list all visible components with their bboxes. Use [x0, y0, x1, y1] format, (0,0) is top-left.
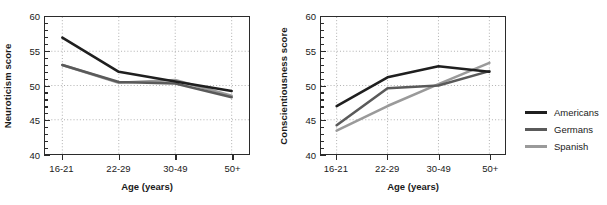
y-axis-minor-tick [44, 30, 48, 31]
y-axis-tick-mark [44, 16, 50, 17]
y-axis-tick-label: 40 [18, 150, 40, 161]
legend-label: Americans [554, 107, 599, 118]
y-axis-minor-tick [320, 113, 324, 114]
figure-root: Neuroticism score 404550556016-2122-2930… [0, 0, 607, 205]
y-axis-minor-tick [320, 30, 324, 31]
x-axis-tick-label: 16-21 [324, 163, 348, 174]
y-axis-minor-tick [320, 58, 324, 59]
x-axis-tick-label: 30-49 [163, 163, 187, 174]
x-axis-tick-label: 22-29 [106, 163, 130, 174]
legend-swatch [525, 145, 547, 148]
y-axis-tick-mark [44, 120, 50, 121]
x-axis-title: Age (years) [387, 181, 439, 192]
x-axis-tick-mark [175, 155, 176, 160]
y-axis-minor-tick [320, 72, 324, 73]
x-axis-tick-label: 22-29 [375, 163, 399, 174]
y-axis-minor-tick [44, 99, 48, 100]
y-axis-minor-tick [320, 79, 324, 80]
legend-swatch [525, 128, 547, 131]
series-line-germans [337, 71, 490, 125]
x-axis-tick-label: 50+ [482, 163, 498, 174]
y-axis-minor-tick [44, 23, 48, 24]
y-axis-minor-tick [320, 141, 324, 142]
x-axis-tick-mark [387, 155, 388, 160]
y-axis-tick-mark [320, 51, 326, 52]
y-axis-minor-tick [320, 127, 324, 128]
chart-legend: AmericansGermansSpanish [525, 104, 599, 155]
y-axis-tick-label: 45 [18, 115, 40, 126]
y-axis-minor-tick [320, 65, 324, 66]
y-axis-minor-tick [320, 92, 324, 93]
legend-label: Spanish [554, 141, 588, 152]
y-axis-tick-label: 40 [294, 150, 316, 161]
legend-label: Germans [554, 124, 593, 135]
y-axis-tick-mark [44, 155, 50, 156]
y-axis-minor-tick [320, 23, 324, 24]
legend-item-americans: Americans [525, 104, 599, 121]
y-axis-minor-tick [320, 148, 324, 149]
y-axis-minor-tick [320, 99, 324, 100]
y-axis-minor-tick [44, 148, 48, 149]
y-axis-minor-tick [44, 58, 48, 59]
y-axis-minor-tick [320, 106, 324, 107]
plot-area [320, 16, 506, 155]
y-axis-tick-label: 50 [294, 80, 316, 91]
y-axis-tick-mark [320, 86, 326, 87]
y-axis-minor-tick [44, 79, 48, 80]
legend-item-germans: Germans [525, 121, 599, 138]
y-axis-title: Conscientiousness score [278, 27, 289, 144]
y-axis-minor-tick [44, 134, 48, 135]
y-axis-tick-label: 50 [18, 80, 40, 91]
y-axis-tick-label: 55 [18, 45, 40, 56]
y-axis-tick-mark [44, 51, 50, 52]
x-axis-tick-mark [232, 155, 233, 160]
x-axis-tick-label: 16-21 [49, 163, 73, 174]
y-axis-tick-mark [320, 120, 326, 121]
y-axis-minor-tick [44, 37, 48, 38]
y-axis-minor-tick [44, 141, 48, 142]
x-axis-tick-label: 30-49 [427, 163, 451, 174]
y-axis-tick-label: 45 [294, 115, 316, 126]
y-axis-minor-tick [44, 127, 48, 128]
x-axis-title: Age (years) [121, 181, 173, 192]
y-axis-tick-mark [320, 16, 326, 17]
legend-item-spanish: Spanish [525, 138, 599, 155]
y-axis-tick-label: 60 [18, 11, 40, 22]
x-axis-tick-mark [490, 155, 491, 160]
y-axis-tick-label: 60 [294, 11, 316, 22]
chart-panel-conscientiousness: Conscientiousness score 404550556016-212… [280, 0, 520, 205]
y-axis-minor-tick [320, 44, 324, 45]
series-lines [45, 17, 249, 154]
x-axis-tick-mark [336, 155, 337, 160]
y-axis-minor-tick [44, 106, 48, 107]
x-axis-tick-label: 50+ [224, 163, 240, 174]
y-axis-minor-tick [44, 65, 48, 66]
plot-area [44, 16, 250, 155]
y-axis-title: Neuroticism score [2, 43, 13, 128]
series-lines [321, 17, 505, 154]
y-axis-minor-tick [44, 44, 48, 45]
y-axis-minor-tick [44, 92, 48, 93]
y-axis-tick-label: 55 [294, 45, 316, 56]
legend-swatch [525, 111, 547, 114]
chart-panel-neuroticism: Neuroticism score 404550556016-2122-2930… [0, 0, 290, 205]
y-axis-minor-tick [44, 72, 48, 73]
y-axis-tick-mark [320, 155, 326, 156]
y-axis-minor-tick [320, 134, 324, 135]
y-axis-minor-tick [320, 37, 324, 38]
y-axis-minor-tick [44, 113, 48, 114]
x-axis-tick-mark [62, 155, 63, 160]
x-axis-tick-mark [439, 155, 440, 160]
y-axis-tick-mark [44, 86, 50, 87]
x-axis-tick-mark [119, 155, 120, 160]
